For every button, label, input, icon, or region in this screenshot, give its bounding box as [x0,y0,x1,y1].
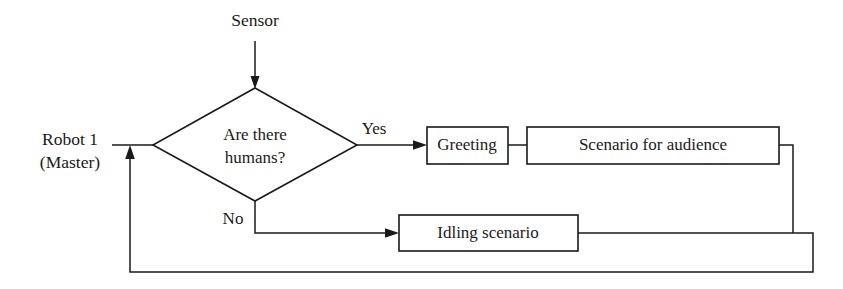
yes-arrow-head-icon [413,140,427,150]
decision-node [153,88,357,201]
sensor-label: Sensor [231,10,279,30]
no-arrow-head-icon [385,228,399,238]
no-branch-connector [255,201,399,238]
idling-label: Idling scenario [437,223,539,242]
flowchart-canvas: Sensor Robot 1 (Master) Are there humans… [0,0,843,289]
actor-label-line1: Robot 1 [42,129,98,149]
scenario-audience-label: Scenario for audience [579,135,727,154]
yes-branch-connector [357,140,427,150]
actor-label-line2: (Master) [40,152,100,172]
yes-edge-label: Yes [362,119,387,138]
decision-diamond-shape [153,88,357,201]
flowchart-diagram: Sensor Robot 1 (Master) Are there humans… [0,0,843,289]
no-edge-label: No [223,209,244,228]
sensor-input-connector [251,41,260,89]
scenario-return-connector [779,145,793,233]
greeting-label: Greeting [437,135,497,154]
decision-label-line1: Are there [223,125,287,144]
sensor-arrow-head-icon [251,76,260,89]
no-connector-line [255,201,390,233]
decision-label-line2: humans? [225,148,285,167]
loop-return-arrow-head-icon [125,145,135,159]
